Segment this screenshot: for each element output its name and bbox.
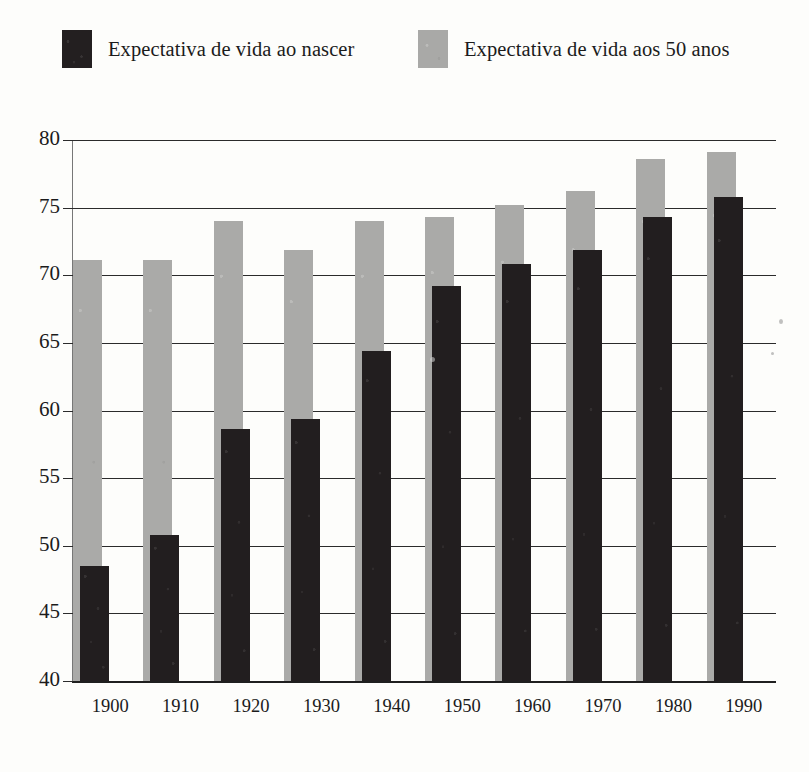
legend-item-label: Expectativa de vida aos 50 anos — [464, 38, 730, 61]
y-axis-tick-label: 40 — [14, 667, 60, 692]
x-axis-tick-label: 1980 — [638, 696, 708, 717]
y-axis-tick — [63, 208, 73, 209]
y-axis-tick-label: 70 — [14, 261, 60, 286]
bar-life-expectancy-at-birth-1960 — [502, 264, 531, 681]
scan-speck — [771, 352, 774, 355]
y-axis-tick — [63, 343, 73, 344]
bar-life-expectancy-at-birth-1970 — [573, 250, 602, 681]
x-axis-tick-label: 1940 — [357, 696, 427, 717]
chart-page: Expectativa de vida ao nascer Expectativ… — [0, 0, 809, 772]
y-axis-tick — [63, 681, 73, 682]
y-axis-tick-label: 75 — [14, 194, 60, 219]
y-axis-tick — [63, 411, 73, 412]
x-axis-tick-label: 1900 — [75, 696, 145, 717]
y-axis-tick-label: 65 — [14, 329, 60, 354]
y-axis-tick — [63, 275, 73, 276]
x-axis-baseline — [72, 681, 776, 683]
y-axis-tick-label: 60 — [14, 397, 60, 422]
y-axis-tick-label: 45 — [14, 599, 60, 624]
bar-life-expectancy-at-birth-1900 — [80, 566, 109, 681]
chart-legend: Expectativa de vida ao nascer Expectativ… — [0, 28, 809, 78]
x-axis-tick-label: 1960 — [498, 696, 568, 717]
legend-item-life-expectancy-at-50: Expectativa de vida aos 50 anos — [418, 30, 730, 68]
plot-area — [72, 140, 776, 681]
legend-item-life-expectancy-at-birth: Expectativa de vida ao nascer — [62, 30, 355, 68]
gridline — [72, 140, 776, 141]
bar-life-expectancy-at-birth-1940 — [362, 351, 391, 681]
y-axis-tick — [63, 613, 73, 614]
gray-square-icon — [418, 30, 448, 68]
bar-life-expectancy-at-birth-1990 — [714, 197, 743, 681]
y-axis-tick — [63, 478, 73, 479]
y-axis-tick-label: 80 — [14, 126, 60, 151]
bar-life-expectancy-at-birth-1930 — [291, 419, 320, 681]
bar-life-expectancy-at-birth-1980 — [643, 217, 672, 681]
scan-speck — [779, 319, 783, 324]
x-axis-tick-label: 1950 — [427, 696, 497, 717]
y-axis-tick-label: 50 — [14, 532, 60, 557]
y-axis-tick — [63, 546, 73, 547]
bar-life-expectancy-at-birth-1910 — [150, 535, 179, 681]
bar-life-expectancy-at-birth-1950 — [432, 286, 461, 681]
y-axis-tick-label: 55 — [14, 464, 60, 489]
scan-speck — [430, 357, 435, 362]
x-axis-tick-label: 1990 — [709, 696, 779, 717]
y-axis-tick — [63, 140, 73, 141]
x-axis-tick-label: 1910 — [146, 696, 216, 717]
black-square-icon — [62, 30, 92, 68]
bar-life-expectancy-at-birth-1920 — [221, 429, 250, 681]
x-axis-tick-label: 1930 — [286, 696, 356, 717]
x-axis-tick-labels: 1900191019201930194019501960197019801990 — [72, 696, 776, 726]
gridline — [72, 208, 776, 209]
legend-item-label: Expectativa de vida ao nascer — [108, 38, 355, 61]
x-axis-tick-label: 1920 — [216, 696, 286, 717]
x-axis-tick-label: 1970 — [568, 696, 638, 717]
